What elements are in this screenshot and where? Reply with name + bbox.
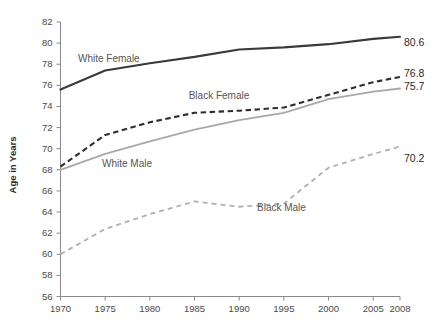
y-axis-ticks: 5658606264666870727476788082 xyxy=(42,16,61,302)
x-tick-label: 1970 xyxy=(50,303,71,314)
end-label-black-female: 76.8 xyxy=(404,67,425,79)
y-axis-title: Age in Years xyxy=(7,137,18,194)
x-tick-label: 1985 xyxy=(184,303,205,314)
series-label-white-male: White Male xyxy=(102,158,152,169)
x-tick-label: 2000 xyxy=(318,303,339,314)
y-tick-label: 62 xyxy=(42,227,53,238)
y-tick-label: 60 xyxy=(42,248,53,259)
life-expectancy-chart: 5658606264666870727476788082 19701975198… xyxy=(0,0,435,334)
x-tick-label: 2008 xyxy=(389,303,410,314)
chart-svg: 5658606264666870727476788082 19701975198… xyxy=(0,0,435,334)
series-label-white-female: White Female xyxy=(78,53,140,64)
x-tick-label: 2005 xyxy=(363,303,384,314)
end-label-white-male: 75.7 xyxy=(404,80,425,92)
series-label-black-female: Black Female xyxy=(189,90,250,101)
y-tick-label: 68 xyxy=(42,164,53,175)
y-tick-label: 80 xyxy=(42,37,53,48)
y-tick-label: 72 xyxy=(42,122,53,133)
x-axis-ticks: 197019751980198519901995200020052008 xyxy=(50,297,411,314)
x-tick-label: 1990 xyxy=(229,303,250,314)
y-tick-label: 58 xyxy=(42,269,53,280)
x-tick-label: 1975 xyxy=(95,303,116,314)
y-tick-label: 74 xyxy=(42,100,53,111)
x-tick-label: 1995 xyxy=(273,303,294,314)
end-label-white-female: 80.6 xyxy=(404,36,425,48)
series-lines-group xyxy=(61,37,401,254)
y-tick-label: 66 xyxy=(42,185,53,196)
y-tick-label: 82 xyxy=(42,16,53,27)
x-tick-label: 1980 xyxy=(139,303,160,314)
y-tick-label: 78 xyxy=(42,58,53,69)
y-tick-label: 64 xyxy=(42,206,53,217)
y-tick-label: 70 xyxy=(42,143,53,154)
y-tick-label: 56 xyxy=(42,291,53,302)
series-label-black-male: Black Male xyxy=(257,202,306,213)
y-tick-label: 76 xyxy=(42,79,53,90)
end-label-black-male: 70.2 xyxy=(404,152,425,164)
